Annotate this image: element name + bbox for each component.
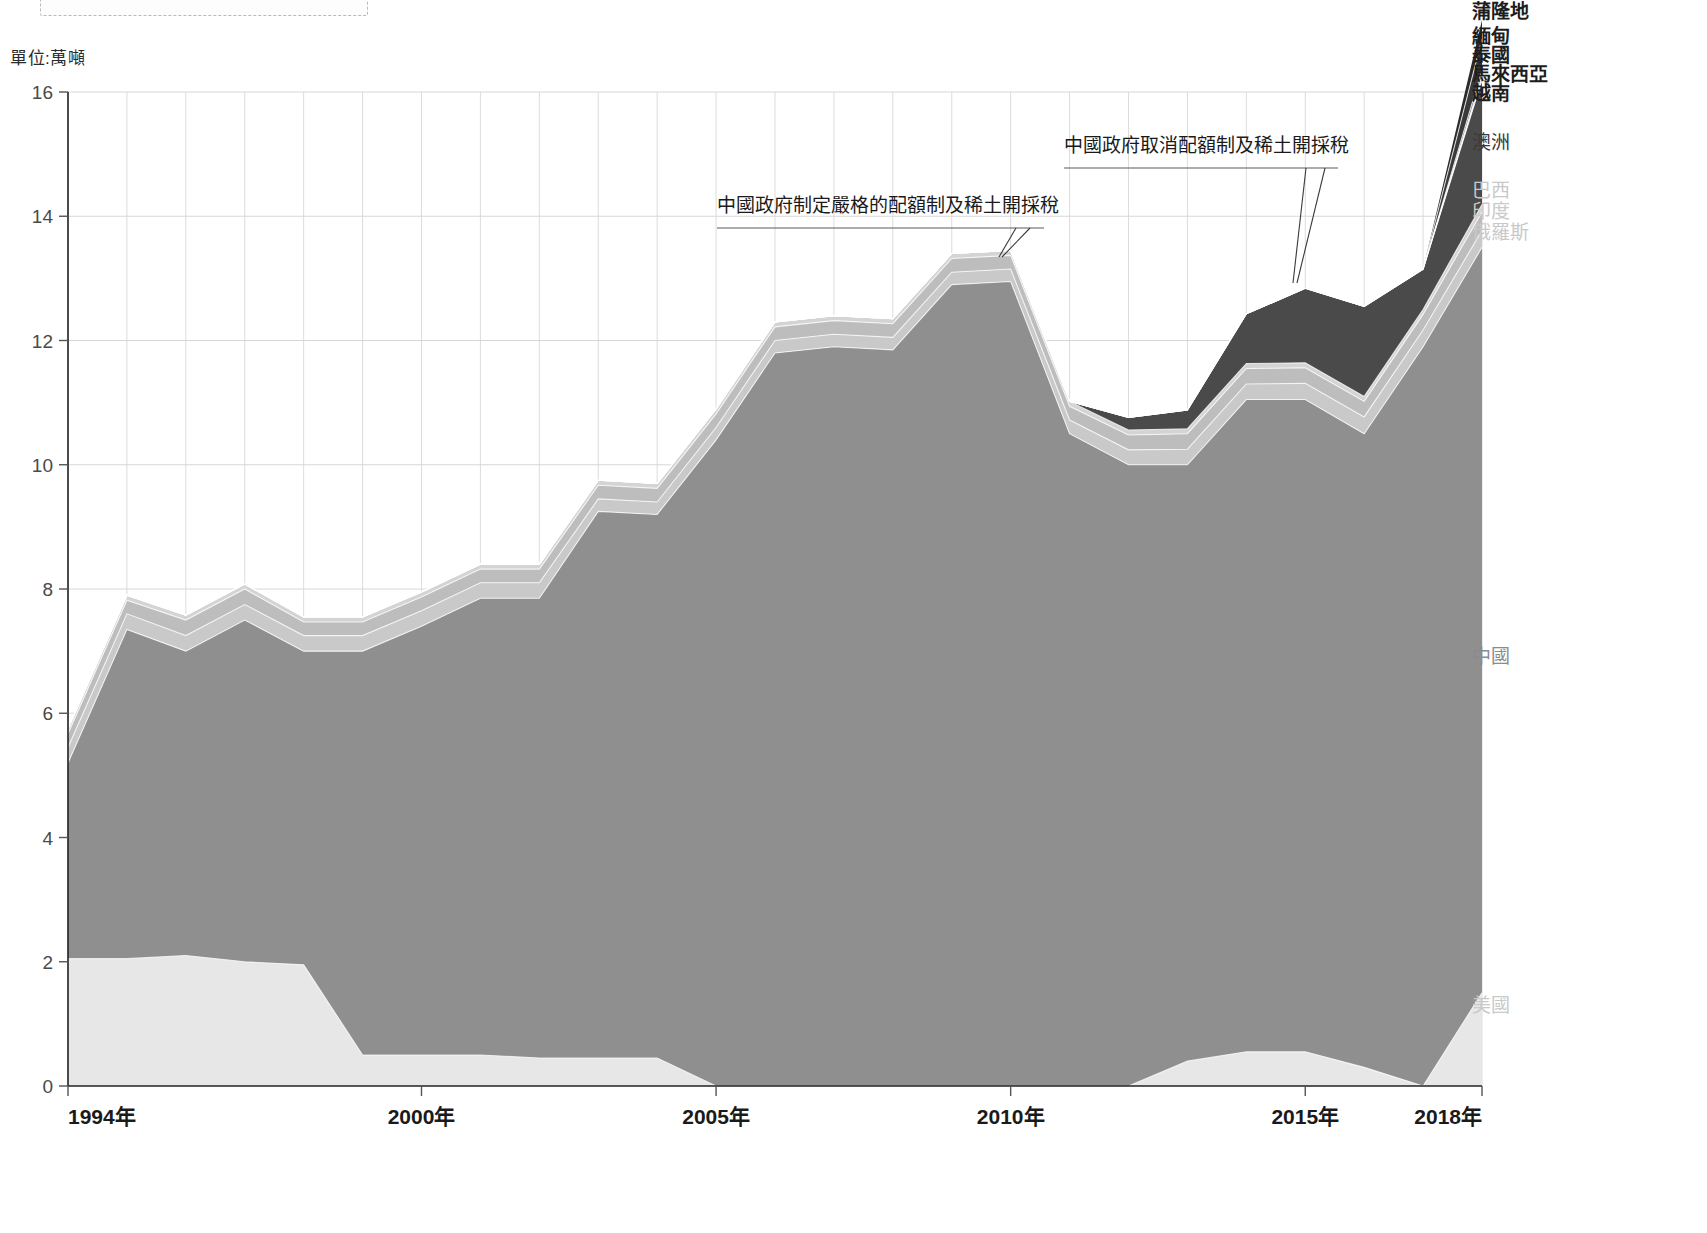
series-label-中國: 中國 [1472, 646, 1510, 667]
chart-page: 單位:萬噸 02468101214161994年2000年2005年2010年2… [0, 0, 1707, 1233]
y-axis-ticks: 0246810121416 [32, 82, 68, 1097]
series-label-緬甸: 緬甸 [1472, 25, 1510, 47]
series-label-美國: 美國 [1472, 995, 1510, 1016]
series-labels: 蒲隆地緬甸泰國馬來西亞越南澳洲巴西印度俄羅斯中國美國 [1471, 0, 1548, 1016]
series-label-巴西: 巴西 [1472, 180, 1510, 201]
annotation-quota-introduced-leader-b [1002, 228, 1030, 257]
y-tick-label: 0 [42, 1076, 53, 1097]
annotation-quota-cancelled-leader-b [1297, 168, 1325, 283]
x-tick-label: 2018年 [1414, 1105, 1482, 1128]
x-axis-ticks: 1994年2000年2005年2010年2015年2018年 [68, 1086, 1482, 1128]
series-label-俄羅斯: 俄羅斯 [1472, 222, 1529, 243]
series-label-澳洲: 澳洲 [1472, 132, 1510, 153]
annotations: 中國政府制定嚴格的配額制及稀土開採稅中國政府取消配額制及稀土開採稅 [717, 135, 1349, 283]
series-label-越南: 越南 [1471, 82, 1510, 104]
annotation-quota-introduced-text: 中國政府制定嚴格的配額制及稀土開採稅 [717, 195, 1059, 216]
y-tick-label: 6 [42, 703, 53, 724]
annotation-quota-cancelled-leader-a [1293, 168, 1306, 283]
y-tick-label: 10 [32, 455, 53, 476]
series-label-泰國: 泰國 [1471, 44, 1510, 66]
y-tick-label: 8 [42, 579, 53, 600]
y-tick-label: 2 [42, 952, 53, 973]
y-tick-label: 14 [32, 206, 54, 227]
stacked-area-chart: 02468101214161994年2000年2005年2010年2015年20… [0, 0, 1707, 1233]
series-label-蒲隆地: 蒲隆地 [1472, 0, 1529, 22]
y-tick-label: 4 [42, 828, 53, 849]
series-label-印度: 印度 [1472, 201, 1510, 222]
x-tick-label: 2015年 [1271, 1105, 1339, 1128]
y-tick-label: 16 [32, 82, 53, 103]
y-tick-label: 12 [32, 331, 53, 352]
series-label-馬來西亞: 馬來西亞 [1472, 63, 1548, 85]
annotation-quota-cancelled-text: 中國政府取消配額制及稀土開採稅 [1064, 135, 1349, 156]
x-tick-label: 1994年 [68, 1105, 136, 1128]
x-tick-label: 2000年 [388, 1105, 456, 1128]
x-tick-label: 2010年 [977, 1105, 1045, 1128]
x-tick-label: 2005年 [682, 1105, 750, 1128]
